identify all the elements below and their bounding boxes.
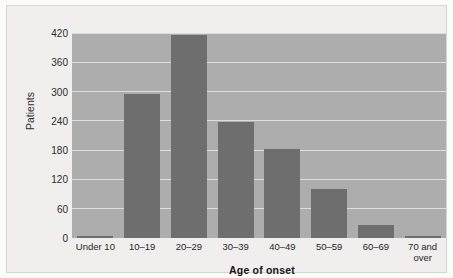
y-axis-tick-label: 360	[31, 57, 68, 68]
y-axis-tick-label: 300	[31, 86, 68, 97]
x-axis-tick-label: 50–59	[306, 240, 353, 266]
y-axis-tick-label: 240	[31, 115, 68, 126]
bar-slot	[306, 33, 353, 238]
x-axis-tick-label: 70 and over	[399, 240, 446, 266]
x-axis-tick-label: 40–49	[259, 240, 306, 266]
bar-series	[72, 33, 446, 238]
x-axis-tick-labels: Under 1010–1920–2930–3940–4950–5960–6970…	[72, 240, 446, 266]
x-axis-tick-label: 20–29	[166, 240, 213, 266]
bar	[77, 236, 113, 238]
bar	[405, 236, 441, 238]
bar	[311, 189, 347, 238]
bar	[264, 149, 300, 238]
bar	[124, 94, 160, 238]
x-axis-tick-label: 10–19	[119, 240, 166, 266]
bar-slot	[399, 33, 446, 238]
y-axis-tick-label: 60	[31, 203, 68, 214]
bar	[171, 35, 207, 238]
y-axis-tick-label: 180	[31, 145, 68, 156]
bar-slot	[119, 33, 166, 238]
bar-slot	[353, 33, 400, 238]
y-axis-tick-labels: 060120180240300360420	[31, 33, 68, 238]
bar-slot	[259, 33, 306, 238]
bar-slot	[212, 33, 259, 238]
bar	[358, 225, 394, 238]
y-axis-tick-label: 420	[31, 28, 68, 39]
x-axis-tick-label: 60–69	[353, 240, 400, 266]
plot-area	[72, 33, 446, 238]
x-axis-tick-label: 30–39	[212, 240, 259, 266]
bar	[218, 122, 254, 238]
bar-slot	[72, 33, 119, 238]
chart-canvas: Patients 060120180240300360420 Under 101…	[6, 5, 447, 273]
y-axis-tick-label: 120	[31, 174, 68, 185]
y-axis-tick-label: 0	[31, 233, 68, 244]
chart-figure: Patients 060120180240300360420 Under 101…	[0, 0, 453, 278]
bar-slot	[166, 33, 213, 238]
x-axis-tick-label: Under 10	[72, 240, 119, 266]
x-axis-title: Age of onset	[72, 264, 452, 276]
